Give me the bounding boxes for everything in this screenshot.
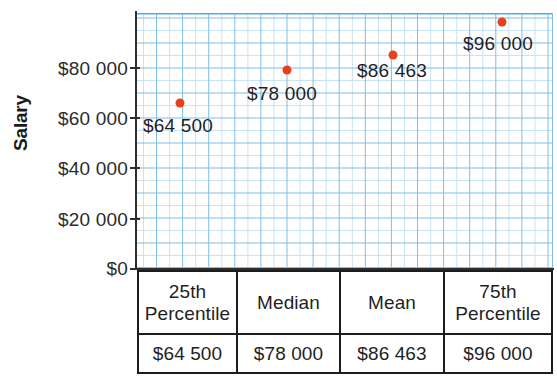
y-tick-mark-60000 — [130, 117, 140, 119]
table-header-25th-percentile: 25th Percentile — [139, 272, 238, 333]
table-header-median: Median — [238, 272, 341, 333]
y-tick-mark-20000 — [130, 218, 140, 220]
table-value-mean: $86 463 — [341, 335, 445, 372]
table-header-row: 25th Percentile Median Mean 75th Percent… — [139, 272, 551, 335]
table-value-25th-percentile: $64 500 — [139, 335, 238, 372]
data-table: 25th Percentile Median Mean 75th Percent… — [137, 270, 553, 374]
table-value-75th-percentile: $96 000 — [445, 335, 551, 372]
table-value-median: $78 000 — [238, 335, 341, 372]
table-value-row: $64 500 $78 000 $86 463 $96 000 — [139, 335, 551, 372]
point-label-median: $78 000 — [247, 83, 317, 105]
table-header-mean: Mean — [341, 272, 445, 333]
y-tick-mark-80000 — [130, 67, 140, 69]
chart-figure: Salary $80 000 $60 000 $40 000 $20 000 $… — [0, 0, 557, 378]
table-header-75th-percentile: 75th Percentile — [445, 272, 551, 333]
point-label-75th-percentile: $96 000 — [463, 33, 533, 55]
point-label-mean: $86 463 — [357, 60, 427, 82]
point-label-25th-percentile: $64 500 — [143, 115, 213, 137]
y-tick-mark-40000 — [130, 167, 140, 169]
